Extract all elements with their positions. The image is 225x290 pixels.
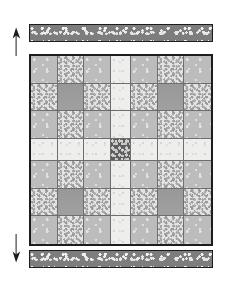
sashing-r4c3 [84,139,111,161]
patch-r5c1 [31,161,58,189]
patch-r5c7 [184,161,211,189]
patch-r2c1 [31,84,58,112]
patch-r7c3 [84,216,111,244]
patch-r6c6 [158,189,185,217]
patch-r6c7 [184,189,211,217]
binding-strip-bottom [29,250,213,268]
sashing-r5c4 [111,161,132,189]
patch-r2c6 [158,84,185,112]
patch-r3c5 [131,111,158,139]
patch-r7c5 [131,216,158,244]
patch-r6c2 [58,189,85,217]
sashing-r4c2 [58,139,85,161]
patch-r6c3 [84,189,111,217]
quilt-top [29,54,213,246]
patch-r1c3 [84,56,111,84]
patch-r2c3 [84,84,111,112]
sashing-r3c4 [111,111,132,139]
patch-r5c2 [58,161,85,189]
patch-r7c6 [158,216,185,244]
patch-r3c1 [31,111,58,139]
center-cornerstone [111,139,132,161]
patch-r5c3 [84,161,111,189]
patch-r3c6 [158,111,185,139]
sashing-r2c4 [111,84,132,112]
patch-r7c7 [184,216,211,244]
patch-r1c2 [58,56,85,84]
patch-grid [31,56,211,244]
binding-strip-top [29,24,213,42]
sashing-r1c4 [111,56,132,84]
direction-arrow-up-icon [9,26,25,56]
sashing-r4c7 [184,139,211,161]
patch-r7c2 [58,216,85,244]
direction-arrow-down-icon [9,234,25,264]
patch-r1c1 [31,56,58,84]
patch-r1c5 [131,56,158,84]
sashing-r4c6 [158,139,185,161]
sashing-r4c1 [31,139,58,161]
patch-r1c6 [158,56,185,84]
sashing-r7c4 [111,216,132,244]
patch-r6c1 [31,189,58,217]
patch-r3c2 [58,111,85,139]
sashing-r4c5 [131,139,158,161]
patch-r1c7 [184,56,211,84]
patch-r3c3 [84,111,111,139]
patch-r6c5 [131,189,158,217]
patch-r3c7 [184,111,211,139]
patch-r5c6 [158,161,185,189]
patch-r5c5 [131,161,158,189]
patch-r2c5 [131,84,158,112]
patch-r2c2 [58,84,85,112]
patch-r7c1 [31,216,58,244]
diagram-canvas [0,0,225,290]
patch-r2c7 [184,84,211,112]
sashing-r6c4 [111,189,132,217]
